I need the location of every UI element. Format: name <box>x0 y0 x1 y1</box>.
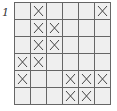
grid-cell-r5-c4 <box>79 88 95 105</box>
grid-cell-r2-c2 <box>47 37 63 54</box>
grid-cell-r2-c1 <box>31 37 47 54</box>
grid-cell-r0-c3 <box>63 3 79 20</box>
grid-cell-r0-c5 <box>95 3 111 20</box>
grid-cell-r5-c0 <box>15 88 31 105</box>
x-mark-icon <box>17 56 28 68</box>
x-grid <box>14 2 111 105</box>
grid-cell-r1-c1 <box>31 20 47 37</box>
x-mark-icon <box>33 22 44 34</box>
grid-cell-r3-c0 <box>15 54 31 71</box>
grid-cell-r3-c1 <box>31 54 47 71</box>
grid-cell-r5-c3 <box>63 88 79 105</box>
x-mark-icon <box>81 73 92 85</box>
grid-cell-r5-c5 <box>95 88 111 105</box>
grid-cell-r5-c1 <box>31 88 47 105</box>
grid-cell-r4-c0 <box>15 71 31 88</box>
x-mark-icon <box>17 73 28 85</box>
x-mark-icon <box>65 73 76 85</box>
grid-cell-r4-c2 <box>47 71 63 88</box>
x-mark-icon <box>33 56 44 68</box>
grid-cell-r1-c0 <box>15 20 31 37</box>
grid-cell-r4-c4 <box>79 71 95 88</box>
x-mark-icon <box>33 5 44 17</box>
x-mark-icon <box>49 39 60 51</box>
grid-cell-r3-c5 <box>95 54 111 71</box>
grid-cell-r1-c5 <box>95 20 111 37</box>
grid-cell-r0-c0 <box>15 3 31 20</box>
grid-cell-r3-c3 <box>63 54 79 71</box>
x-mark-icon <box>49 22 60 34</box>
grid-cell-r3-c4 <box>79 54 95 71</box>
grid-cell-r2-c3 <box>63 37 79 54</box>
grid-cell-r1-c2 <box>47 20 63 37</box>
grid-cell-r5-c2 <box>47 88 63 105</box>
grid-cell-r2-c0 <box>15 37 31 54</box>
grid-cell-r2-c4 <box>79 37 95 54</box>
x-mark-icon <box>81 90 92 102</box>
grid-cell-r0-c4 <box>79 3 95 20</box>
grid-cell-r4-c1 <box>31 71 47 88</box>
puzzle-label: 1 <box>2 6 9 19</box>
x-mark-icon <box>65 90 76 102</box>
x-mark-icon <box>33 39 44 51</box>
x-mark-icon <box>97 5 108 17</box>
grid-cell-r4-c5 <box>95 71 111 88</box>
grid-cell-r0-c2 <box>47 3 63 20</box>
grid-cell-r1-c3 <box>63 20 79 37</box>
grid-cell-r3-c2 <box>47 54 63 71</box>
grid-cell-r1-c4 <box>79 20 95 37</box>
x-mark-icon <box>97 73 108 85</box>
grid-cell-r0-c1 <box>31 3 47 20</box>
grid-cell-r4-c3 <box>63 71 79 88</box>
grid-cell-r2-c5 <box>95 37 111 54</box>
